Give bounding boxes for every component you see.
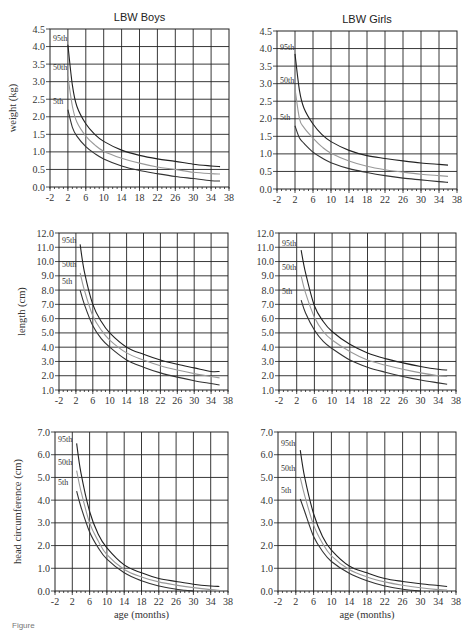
y-tick-label: 7.0	[38, 427, 51, 438]
y-tick-label: 0.0	[261, 586, 274, 597]
y-tick-label: 1.0	[261, 563, 274, 574]
y-tick-label: 1.5	[260, 131, 273, 142]
x-tick-label: 26	[170, 192, 180, 203]
series-label-95th: 95th	[53, 34, 67, 43]
series-label-5th: 5th	[62, 277, 72, 286]
x-tick-label: 18	[363, 395, 373, 406]
y-tick-label: 8.0	[262, 285, 275, 296]
y-tick-label: 0.5	[33, 164, 46, 175]
y-tick-label: 7.0	[261, 427, 274, 438]
series-label-95th: 95th	[280, 43, 294, 52]
x-tick-label: 26	[171, 596, 181, 607]
x-tick-label: 34	[206, 395, 216, 406]
y-tick-label: 5.0	[261, 472, 274, 483]
x-tick-label: 38	[224, 192, 234, 203]
y-tick-label: 6.0	[42, 313, 55, 324]
x-tick-label: 22	[152, 192, 162, 203]
x-tick-label: 10	[327, 395, 337, 406]
y-tick-label: 4.5	[260, 26, 273, 37]
series-label-50th: 50th	[282, 263, 296, 272]
series-line-50th-percentile	[68, 76, 220, 174]
y-tick-label: 1.0	[262, 385, 275, 396]
y-tick-label: 11.0	[257, 242, 274, 253]
y-tick-label: 4.0	[260, 43, 273, 54]
x-tick-label: 30	[416, 194, 426, 205]
x-tick-label: 10	[102, 596, 112, 607]
x-tick-label: 18	[362, 596, 372, 607]
y-tick-label: 1.0	[38, 563, 51, 574]
x-tick-label: 30	[416, 395, 426, 406]
series-label-5th: 5th	[53, 97, 63, 106]
x-tick-label: 30	[188, 192, 198, 203]
x-tick-label: 30	[189, 395, 199, 406]
series-line-95th-percentile	[301, 250, 447, 370]
series-line-95th-percentile	[80, 244, 219, 371]
x-tick-label: 14	[122, 395, 132, 406]
y-tick-label: 2.0	[33, 111, 46, 122]
y-tick-label: 5.0	[262, 327, 275, 338]
y-tick-label: 10.0	[37, 256, 55, 267]
chart-title: LBW Boys	[114, 11, 166, 23]
x-tick-label: 34	[434, 194, 444, 205]
y-axis-label: weight (kg)	[7, 83, 19, 132]
y-tick-label: 2.0	[38, 540, 51, 551]
chart-title: LBW Girls	[342, 13, 392, 25]
series-line-95th-percentile	[295, 54, 448, 165]
y-tick-label: 6.0	[261, 449, 274, 460]
y-tick-label: 3.0	[42, 356, 55, 367]
series-line-95th-percentile	[77, 443, 220, 586]
y-tick-label: 2.5	[260, 96, 273, 107]
x-tick-label: 6	[87, 596, 92, 607]
x-tick-label: 6	[312, 395, 317, 406]
x-tick-label: -2	[51, 596, 59, 607]
x-tick-label: 2	[73, 395, 78, 406]
y-tick-label: 4.0	[42, 342, 55, 353]
y-tick-label: 4.0	[38, 495, 51, 506]
series-label-95th: 95th	[282, 239, 296, 248]
x-tick-label: 30	[188, 596, 198, 607]
y-tick-label: 1.0	[260, 148, 273, 159]
x-tick-label: 22	[154, 596, 164, 607]
series-label-5th: 5th	[280, 113, 290, 122]
y-tick-label: 1.0	[33, 146, 46, 157]
x-tick-label: 18	[362, 194, 372, 205]
y-tick-label: 2.0	[261, 540, 274, 551]
y-tick-label: 0.0	[33, 182, 46, 193]
x-tick-label: -2	[273, 194, 281, 205]
series-label-50th: 50th	[58, 458, 72, 467]
x-axis-label: age (months)	[339, 609, 395, 621]
series-line-5th-percentile	[301, 300, 447, 384]
x-tick-label: 10	[99, 192, 109, 203]
x-tick-label: 34	[206, 192, 216, 203]
x-tick-label: 6	[83, 192, 88, 203]
y-tick-label: 2.0	[262, 370, 275, 381]
series-label-5th: 5th	[282, 287, 292, 296]
chart-panel-2: -22610141822263034380.00.51.01.52.02.53.…	[260, 13, 463, 205]
y-tick-label: 6.0	[38, 449, 51, 460]
x-tick-label: 10	[105, 395, 115, 406]
series-line-95th-percentile	[300, 450, 447, 586]
x-tick-label: 2	[65, 192, 70, 203]
x-tick-label: 34	[433, 596, 443, 607]
series-line-95th-percentile	[68, 45, 220, 167]
y-tick-label: 9.0	[262, 270, 275, 281]
y-axis-label: head circumference (cm)	[12, 459, 24, 564]
series-label-50th: 50th	[62, 260, 76, 269]
x-tick-label: 26	[398, 596, 408, 607]
x-tick-label: 14	[344, 596, 354, 607]
series-label-95th: 95th	[58, 435, 72, 444]
series-label-95th: 95th	[62, 236, 76, 245]
x-tick-label: 26	[398, 194, 408, 205]
x-tick-label: 6	[311, 596, 316, 607]
x-tick-label: 2	[293, 596, 298, 607]
series-label-50th: 50th	[281, 464, 295, 473]
y-tick-label: 3.5	[260, 61, 273, 72]
x-tick-label: -2	[274, 596, 282, 607]
y-tick-label: 3.0	[260, 78, 273, 89]
y-tick-label: 5.0	[42, 327, 55, 338]
y-tick-label: 3.0	[261, 517, 274, 528]
x-tick-label: 10	[326, 596, 336, 607]
x-tick-label: 18	[139, 395, 149, 406]
x-tick-label: 38	[451, 596, 461, 607]
chart-panel-3: -22610141822263034381.02.03.04.05.06.07.…	[16, 228, 233, 407]
